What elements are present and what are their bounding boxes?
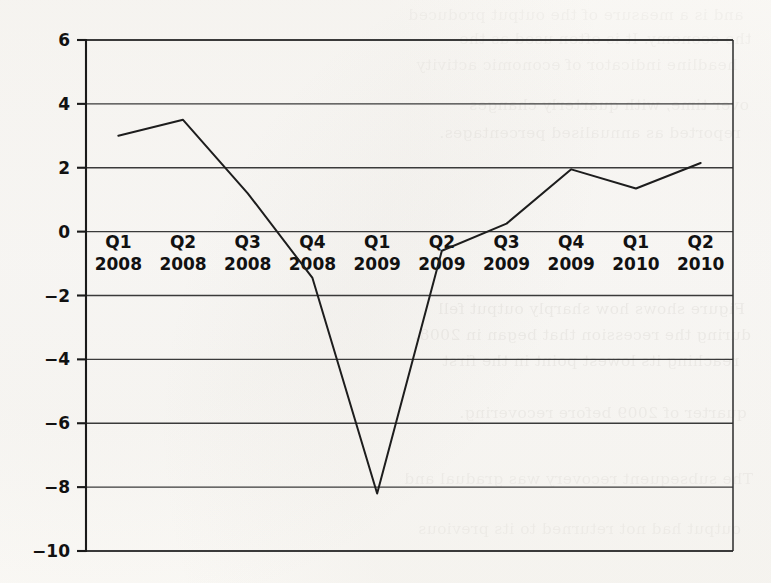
x-tick-label-quarter: Q4 [299,232,325,252]
y-tick-label: −6 [44,413,70,433]
y-tick-label: −8 [44,477,70,497]
x-tick-label-quarter: Q1 [105,232,131,252]
x-tick-label-quarter: Q2 [170,232,196,252]
x-tick-label-year: 2009 [353,254,400,274]
y-tick-label: 4 [58,94,70,114]
x-tick-label-quarter: Q1 [623,232,649,252]
x-tick-label-quarter: Q3 [493,232,519,252]
quarterly-output-line-chart: 6420−2−4−6−8−10 Q12008Q22008Q32008Q42008… [0,0,771,583]
x-tick-label-quarter: Q1 [364,232,390,252]
scanned-page: and is a measure of the output producedt… [0,0,771,583]
x-tick-label-year: 2008 [159,254,206,274]
y-tick-label: 6 [58,30,70,50]
x-tick-label-year: 2008 [224,254,271,274]
x-tick-label-year: 2010 [677,254,724,274]
y-tick-label: −10 [32,541,70,561]
gridlines [86,40,733,551]
x-tick-label-year: 2009 [548,254,595,274]
x-tick-label-year: 2010 [612,254,659,274]
x-axis-tick-labels: Q12008Q22008Q32008Q42008Q12009Q22009Q320… [95,232,725,274]
y-tick-label: 0 [58,222,70,242]
y-tick-label: −4 [44,349,70,369]
x-tick-label-quarter: Q2 [429,232,455,252]
x-tick-label-quarter: Q4 [558,232,584,252]
series-polyline [118,120,700,494]
x-tick-label-quarter: Q3 [235,232,261,252]
axis-tick-marks [77,40,86,551]
x-tick-label-year: 2008 [95,254,142,274]
x-tick-label-year: 2009 [483,254,530,274]
x-tick-label-quarter: Q2 [688,232,714,252]
y-axis-tick-labels: 6420−2−4−6−8−10 [32,30,70,561]
y-tick-label: 2 [58,158,70,178]
y-tick-label: −2 [44,286,70,306]
data-series-line [118,120,700,494]
x-tick-label-year: 2009 [418,254,465,274]
